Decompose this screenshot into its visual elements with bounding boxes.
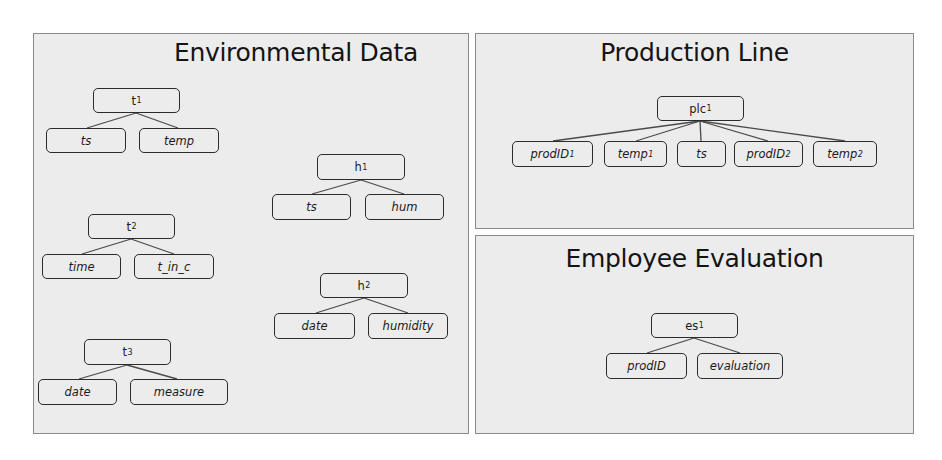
- node-h2[interactable]: h2: [320, 273, 408, 298]
- node-label: t: [131, 94, 136, 108]
- node-label: t: [126, 220, 131, 234]
- node-label: temp: [827, 147, 857, 161]
- panel-production-line: Production Line: [475, 33, 914, 229]
- node-es1-prodid[interactable]: prodID: [606, 353, 687, 379]
- panel-title-environmental-data: Environmental Data: [124, 38, 468, 67]
- node-label: ts: [306, 200, 317, 214]
- node-label: measure: [154, 385, 204, 399]
- node-plc1-temp2[interactable]: temp2: [813, 141, 877, 167]
- node-label: plc: [689, 102, 706, 116]
- node-t1[interactable]: t1: [93, 88, 180, 113]
- node-subscript: 1: [570, 150, 575, 159]
- node-subscript: 2: [365, 281, 370, 290]
- node-t1-temp[interactable]: temp: [139, 128, 219, 153]
- panel-title-production-line: Production Line: [476, 38, 913, 67]
- node-label: time: [69, 260, 95, 274]
- node-subscript: 1: [136, 96, 141, 105]
- node-label: h: [355, 160, 362, 174]
- node-h1[interactable]: h1: [317, 154, 405, 180]
- node-plc1-prodid2[interactable]: prodID2: [734, 141, 803, 167]
- node-label: temp: [164, 134, 194, 148]
- node-h1-hum[interactable]: hum: [365, 194, 444, 220]
- node-h2-date[interactable]: date: [274, 313, 355, 339]
- node-subscript: 1: [699, 321, 704, 330]
- node-subscript: 1: [362, 163, 367, 172]
- node-t2-t-in-c[interactable]: t_in_c: [134, 254, 214, 279]
- node-label: t: [122, 345, 127, 359]
- node-label: t_in_c: [158, 260, 191, 274]
- node-label: ts: [81, 134, 92, 148]
- node-label: prodID: [530, 147, 569, 161]
- node-t1-ts[interactable]: ts: [46, 128, 126, 153]
- node-subscript: 2: [786, 150, 791, 159]
- node-t3-date[interactable]: date: [38, 379, 117, 405]
- node-t2[interactable]: t2: [88, 214, 175, 239]
- node-plc1[interactable]: plc1: [657, 96, 744, 121]
- node-plc1-temp1[interactable]: temp1: [604, 141, 667, 167]
- node-subscript: 1: [648, 150, 653, 159]
- node-plc1-prodid1[interactable]: prodID1: [512, 141, 593, 167]
- node-subscript: 3: [127, 348, 132, 357]
- node-label: date: [302, 319, 328, 333]
- node-label: evaluation: [710, 359, 771, 373]
- node-subscript: 1: [707, 104, 712, 113]
- node-h1-ts[interactable]: ts: [272, 194, 351, 220]
- node-subscript: 2: [131, 222, 136, 231]
- node-label: hum: [392, 200, 418, 214]
- node-label: humidity: [383, 319, 434, 333]
- panel-title-employee-evaluation: Employee Evaluation: [476, 244, 913, 273]
- node-es1-evaluation[interactable]: evaluation: [697, 353, 783, 379]
- node-t3-measure[interactable]: measure: [130, 379, 228, 405]
- node-label: es: [685, 319, 698, 333]
- node-label: date: [65, 385, 91, 399]
- node-t2-time[interactable]: time: [42, 254, 121, 279]
- node-label: prodID: [746, 147, 785, 161]
- node-plc1-ts[interactable]: ts: [677, 141, 726, 167]
- node-label: ts: [696, 147, 707, 161]
- node-label: temp: [618, 147, 648, 161]
- node-subscript: 2: [858, 150, 863, 159]
- node-h2-humidity[interactable]: humidity: [368, 313, 448, 339]
- node-t3[interactable]: t3: [84, 339, 171, 365]
- node-es1[interactable]: es1: [651, 313, 738, 338]
- node-label: prodID: [627, 359, 666, 373]
- node-label: h: [358, 279, 365, 293]
